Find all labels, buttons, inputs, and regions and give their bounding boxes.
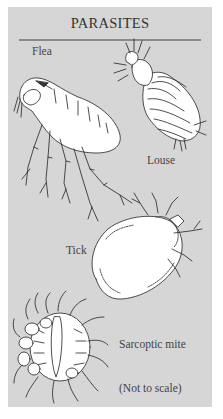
parasites-panel: PARASITES Flea Louse Tick Sarcoptic mite…	[8, 7, 212, 407]
tick-illustration	[92, 193, 202, 299]
louse-illustration	[114, 39, 206, 151]
sarcoptic-mite-illustration	[13, 291, 108, 403]
illustrations	[8, 7, 212, 407]
flea-illustration	[14, 78, 132, 221]
